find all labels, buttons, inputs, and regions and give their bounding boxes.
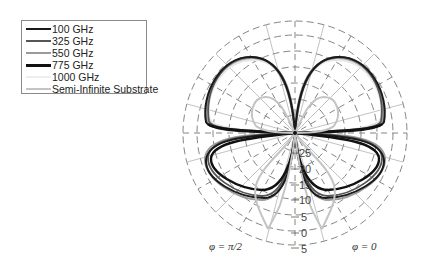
legend-item-325ghz: 325 GHz <box>26 35 93 47</box>
legend-swatch <box>26 88 51 90</box>
legend-label: Semi-Infinite Substrate <box>52 83 158 95</box>
tick-10: 10 <box>299 194 311 206</box>
legend-swatch <box>26 52 51 54</box>
plot-center <box>293 131 297 135</box>
tick-15: 15 <box>299 179 311 191</box>
phi-pi-over-2-label: φ = π/2 <box>209 240 243 252</box>
legend-swatch <box>26 40 51 42</box>
legend-swatch <box>26 76 51 78</box>
legend-swatch <box>26 64 51 67</box>
tick-minus5: 5 <box>301 243 307 255</box>
legend-item-semi-infinite: Semi-Infinite Substrate <box>26 83 158 95</box>
legend-label: 1000 GHz <box>52 71 99 83</box>
legend-label: 775 GHz <box>52 59 93 71</box>
tick-5: 5 <box>301 211 307 223</box>
radial-tick-labels: 25 20 15 10 5 0 5 <box>291 147 311 255</box>
tick-20: 20 <box>299 163 311 175</box>
legend: 100 GHz 325 GHz 550 GHz 775 GHz 1000 GHz… <box>21 20 147 94</box>
legend-label: 100 GHz <box>52 23 93 35</box>
phi-zero-label: φ = 0 <box>352 240 377 252</box>
legend-item-775ghz: 775 GHz <box>26 59 93 71</box>
legend-item-100ghz: 100 GHz <box>26 23 93 35</box>
tick-0: 0 <box>301 227 307 239</box>
legend-item-1000ghz: 1000 GHz <box>26 71 99 83</box>
legend-label: 325 GHz <box>52 35 93 47</box>
legend-item-550ghz: 550 GHz <box>26 47 93 59</box>
legend-label: 550 GHz <box>52 47 93 59</box>
legend-swatch <box>26 28 51 30</box>
tick-25: 25 <box>299 147 311 159</box>
